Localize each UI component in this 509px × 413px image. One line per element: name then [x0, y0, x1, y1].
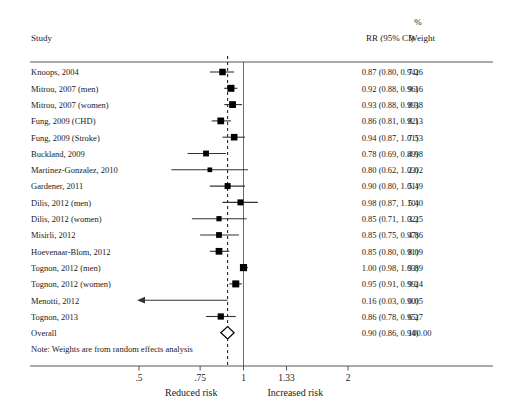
- weight-marker-box: [227, 85, 234, 92]
- study-label: Knoops, 2004: [31, 67, 79, 77]
- note-text: Note: Weights are from random effects an…: [31, 344, 193, 354]
- weight-marker-box: [216, 216, 221, 221]
- study-label: Dilis, 2012 (women): [31, 214, 102, 224]
- axis-label-reduced-risk: Reduced risk: [165, 387, 218, 398]
- study-label: Gardener, 2011: [31, 181, 83, 191]
- weight-value: 3.25: [408, 214, 423, 224]
- header-effect: RR (95% CI): [366, 33, 414, 43]
- study-label: Tognon, 2013: [31, 312, 78, 322]
- weight-value: 5.40: [408, 198, 423, 208]
- weight-value: 8.13: [408, 116, 423, 126]
- study-label: Buckland, 2009: [31, 149, 85, 159]
- weight-value: 8.38: [408, 100, 423, 110]
- weight-value: 9.24: [408, 279, 424, 289]
- study-label: Menotti, 2012: [31, 296, 79, 306]
- overall-diamond: [221, 327, 234, 339]
- weight-value: 4.86: [408, 230, 423, 240]
- weight-marker-box: [217, 118, 224, 125]
- weight-marker-box: [208, 167, 213, 172]
- axis-tick-label: 1.33: [278, 373, 295, 383]
- weight-value: 0.05: [408, 296, 423, 306]
- weight-marker-box: [225, 183, 231, 189]
- weight-value: 9.89: [408, 263, 423, 273]
- weight-value: 5.49: [408, 181, 423, 191]
- weight-marker-box: [240, 264, 247, 271]
- weight-marker-box: [229, 101, 236, 108]
- header-study: Study: [31, 33, 53, 43]
- study-label: Fung, 2009 (CHD): [31, 116, 96, 126]
- study-label: Mitrou, 2007 (men): [31, 84, 98, 94]
- weight-value: 4.98: [408, 149, 423, 159]
- axis-label-increased-risk: Increased risk: [267, 387, 323, 398]
- weight-marker-box: [232, 280, 239, 287]
- study-label: Dilis, 2012 (men): [31, 198, 91, 208]
- study-label: Fung, 2009 (Stroke): [31, 133, 100, 143]
- weight-value: 6.27: [408, 312, 423, 322]
- weight-value: 7.53: [408, 133, 423, 143]
- study-label: Tognon, 2012 (men): [31, 263, 101, 273]
- weight-marker-box: [219, 69, 226, 76]
- weight-value: 2.02: [408, 165, 423, 175]
- ci-arrow-left-icon: [137, 297, 145, 304]
- study-label: Misirli, 2012: [31, 230, 75, 240]
- weight-marker-box: [218, 313, 224, 319]
- weight-marker-box: [216, 248, 223, 255]
- weight-value: 7.26: [408, 67, 423, 77]
- study-label: Tognon, 2012 (women): [31, 279, 111, 289]
- axis-tick-label: .75: [194, 373, 206, 383]
- weight-marker-box: [203, 151, 209, 157]
- forest-plot: Study%WeightRR (95% CI)Knoops, 20040.87 …: [0, 0, 509, 413]
- weight-value: 8.09: [408, 247, 423, 257]
- weight-marker-box: [216, 232, 222, 238]
- study-label: Hoevenaar-Blom, 2012: [31, 247, 111, 257]
- header-weight-pct: %: [414, 17, 422, 27]
- weight-marker-box: [231, 134, 238, 141]
- axis-tick-label: .5: [135, 373, 142, 383]
- overall-weight-value: 100.00: [408, 328, 431, 338]
- axis-tick-label: 1: [241, 373, 246, 383]
- weight-marker-box: [237, 199, 243, 205]
- overall-label: Overall: [31, 328, 57, 338]
- study-label: Mitrou, 2007 (women): [31, 100, 109, 110]
- weight-value: 9.16: [408, 84, 423, 94]
- axis-tick-label: 2: [346, 373, 351, 383]
- study-label: Martinez-Gonzalez, 2010: [31, 165, 118, 175]
